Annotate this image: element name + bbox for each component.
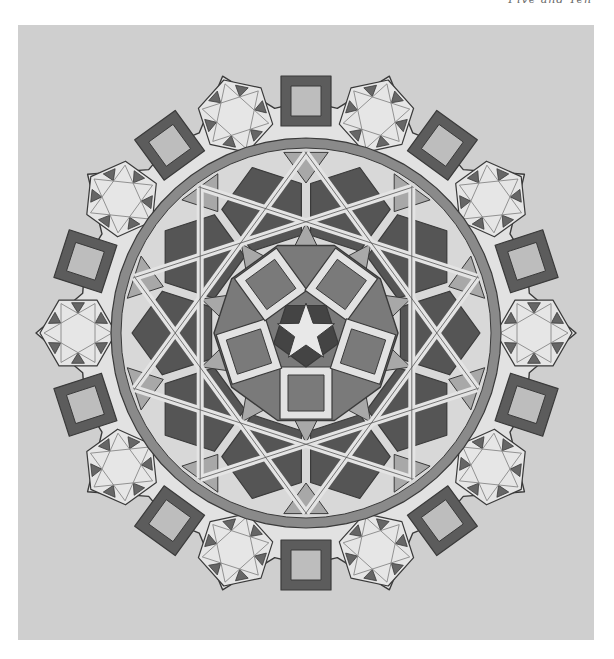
geometric-rosette-drawing [0, 0, 614, 659]
outer-light-square [291, 86, 321, 116]
outer-light-square [291, 550, 321, 580]
inner-square [288, 375, 324, 411]
